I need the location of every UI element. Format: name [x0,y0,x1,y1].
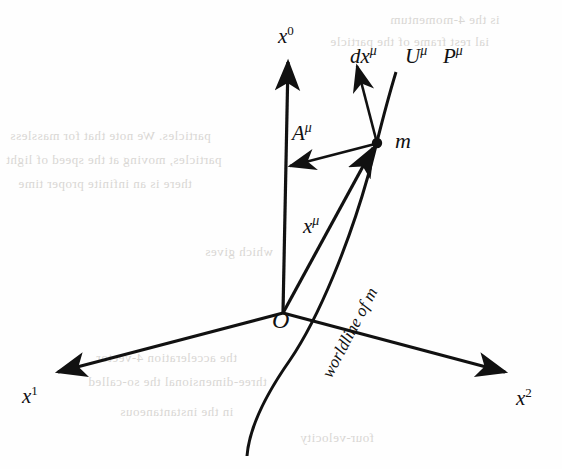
axis-x0-line [283,62,288,313]
figure-canvas: is the 4-momentumial rest frame of the p… [0,0,562,469]
tangent-vector-line [357,66,377,143]
vector-label-acceleration: Aμ [292,123,312,144]
axis-label-x2: x2 [516,388,532,409]
axis-label-x1: x1 [22,386,38,407]
vector-label-four-momentum: Pμ [443,46,463,67]
axis-label-x0: x0 [278,26,294,47]
vector-label-four-velocity: Uμ [405,46,427,67]
worldline-diagram [0,0,562,469]
points-group [372,138,382,148]
particle-point-m [372,138,382,148]
acceleration-vector-line [290,144,375,166]
point-label-origin: O [272,308,289,332]
axis-x2-line [283,313,505,372]
axis-x1-line [58,313,283,372]
vector-label-position: xμ [303,216,319,237]
vector-label-tangent: dxμ [350,46,377,67]
point-label-particle-m: m [395,130,411,152]
